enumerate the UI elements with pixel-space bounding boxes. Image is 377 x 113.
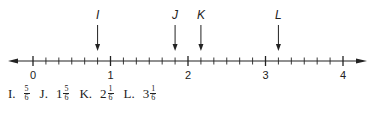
point-label-j: J — [171, 8, 179, 22]
tick-label: 4 — [340, 69, 346, 81]
down-arrow-icon — [198, 44, 203, 51]
fraction: 1 6 — [150, 85, 156, 102]
answer-k: K. 2 1 6 — [79, 85, 113, 102]
answer-letter: I. — [8, 86, 16, 102]
tick-label: 3 — [262, 69, 268, 81]
tick-label: 2 — [185, 69, 191, 81]
point-label-k: K — [197, 8, 206, 22]
whole-number: 3 — [143, 86, 150, 102]
whole-number: 1 — [56, 86, 63, 102]
answer-l: L. 3 1 6 — [124, 85, 157, 102]
down-arrow-icon — [173, 44, 178, 51]
point-label-l: L — [275, 8, 282, 22]
denominator: 6 — [24, 94, 30, 102]
down-arrow-icon — [95, 44, 100, 51]
answer-letter: K. — [79, 86, 92, 102]
left-arrow-icon — [8, 59, 18, 64]
fraction: 1 6 — [108, 85, 114, 102]
tick-label: 1 — [107, 69, 113, 81]
right-arrow-icon — [356, 59, 367, 64]
answer-i: I. 5 6 — [8, 85, 30, 102]
point-label-i: I — [96, 8, 100, 22]
answer-key: I. 5 6 J. 1 5 6 K. 2 1 6 L. 3 1 6 — [8, 85, 166, 102]
fraction: 5 6 — [63, 85, 69, 102]
answer-j: J. 1 5 6 — [40, 85, 70, 102]
answer-letter: L. — [124, 86, 135, 102]
answer-letter: J. — [40, 86, 48, 102]
denominator: 6 — [108, 94, 114, 102]
denominator: 6 — [150, 94, 156, 102]
fraction: 5 6 — [24, 85, 30, 102]
down-arrow-icon — [276, 44, 281, 51]
tick-label: 0 — [30, 69, 36, 81]
denominator: 6 — [63, 94, 69, 102]
whole-number: 2 — [100, 86, 107, 102]
